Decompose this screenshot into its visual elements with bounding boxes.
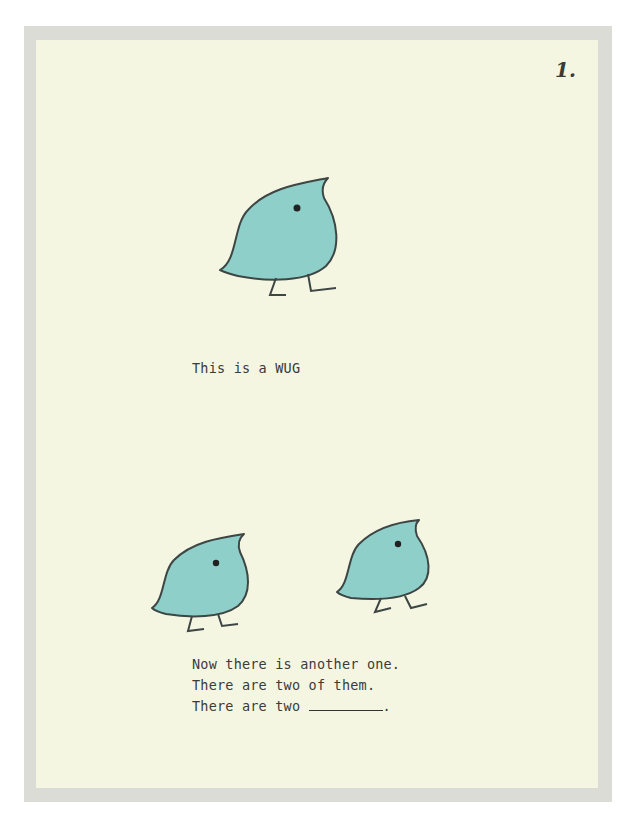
fill-in-prefix: There are two [192,698,309,714]
page-number: 1. [555,58,576,82]
statement-two-of-them: There are two of them. [192,675,375,696]
wug-right-illustration [335,516,435,616]
wug-left-illustration [150,528,250,634]
statement-this-is-a-wug: This is a WUG [192,358,300,379]
fill-in-prompt: There are two . [192,696,391,717]
fill-in-suffix: . [383,698,391,714]
answer-blank[interactable] [309,698,383,711]
wug-single-illustration [218,170,348,300]
statement-another-one: Now there is another one. [192,654,400,675]
